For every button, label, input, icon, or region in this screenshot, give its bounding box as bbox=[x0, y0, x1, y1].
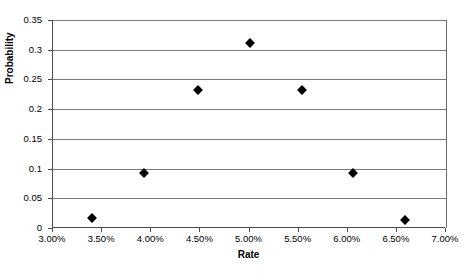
y-axis-tick-mark bbox=[48, 169, 52, 170]
y-axis-tick-label: 0.05 bbox=[0, 193, 42, 203]
x-axis-tick-mark bbox=[396, 228, 397, 232]
x-axis-tick-label: 3.00% bbox=[25, 233, 79, 244]
gridline bbox=[53, 20, 446, 21]
x-axis-tick-label: 6.50% bbox=[369, 233, 423, 244]
data-point-marker bbox=[297, 85, 307, 95]
x-axis-tick-label: 6.00% bbox=[320, 233, 374, 244]
x-axis-tick-mark bbox=[199, 228, 200, 232]
plot-area bbox=[52, 20, 445, 228]
gridline bbox=[53, 79, 446, 80]
y-axis-tick-mark bbox=[48, 79, 52, 80]
data-point-marker bbox=[87, 214, 97, 224]
x-axis-tick-label: 5.00% bbox=[222, 233, 276, 244]
y-axis-tick-mark bbox=[48, 109, 52, 110]
x-axis-tick-label: 4.50% bbox=[172, 233, 226, 244]
y-axis-tick-label: 0.2 bbox=[0, 104, 42, 114]
y-axis-tick-label: 0.1 bbox=[0, 164, 42, 174]
scatter-chart: Probability Rate 00.050.10.150.20.250.30… bbox=[0, 0, 472, 273]
x-axis-tick-mark bbox=[445, 228, 446, 232]
y-axis-tick-label: 0 bbox=[0, 223, 42, 233]
y-axis-tick-mark bbox=[48, 50, 52, 51]
gridline bbox=[53, 109, 446, 110]
y-axis-tick-label: 0.25 bbox=[0, 74, 42, 84]
y-axis-tick-mark bbox=[48, 198, 52, 199]
x-axis-tick-label: 5.50% bbox=[271, 233, 325, 244]
data-point-marker bbox=[246, 38, 256, 48]
gridline bbox=[53, 139, 446, 140]
x-axis-title: Rate bbox=[52, 249, 445, 260]
y-axis-tick-label: 0.15 bbox=[0, 134, 42, 144]
gridline bbox=[53, 50, 446, 51]
x-axis-tick-mark bbox=[101, 228, 102, 232]
y-axis-tick-mark bbox=[48, 20, 52, 21]
gridline bbox=[53, 169, 446, 170]
gridline bbox=[53, 198, 446, 199]
x-axis-tick-label: 3.50% bbox=[74, 233, 128, 244]
y-axis-tick-label: 0.35 bbox=[0, 15, 42, 25]
data-point-marker bbox=[400, 215, 410, 225]
plot-right-edge bbox=[446, 20, 447, 228]
y-axis-tick-mark bbox=[48, 139, 52, 140]
x-axis-tick-label: 7.00% bbox=[418, 233, 472, 244]
data-point-marker bbox=[193, 85, 203, 95]
x-axis-tick-mark bbox=[347, 228, 348, 232]
x-axis-tick-mark bbox=[150, 228, 151, 232]
data-point-marker bbox=[348, 168, 358, 178]
x-axis-tick-label: 4.00% bbox=[123, 233, 177, 244]
x-axis-tick-mark bbox=[249, 228, 250, 232]
x-axis-tick-mark bbox=[298, 228, 299, 232]
x-axis-tick-mark bbox=[52, 228, 53, 232]
y-axis-tick-label: 0.3 bbox=[0, 45, 42, 55]
